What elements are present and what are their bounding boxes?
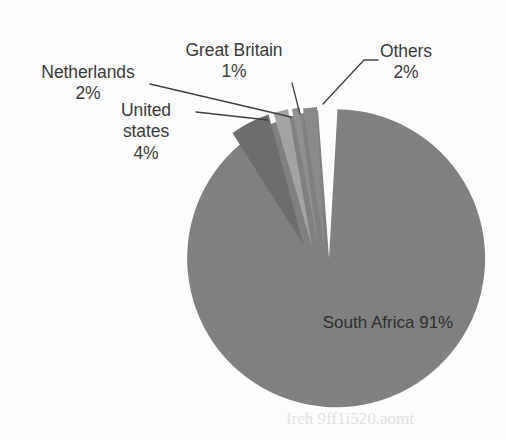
slice-label-others-name: Others (380, 41, 432, 61)
slice-label-south-africa-percent: 91% (419, 313, 453, 332)
slice-label-others[interactable]: Others 2% (362, 41, 450, 84)
slice-label-netherlands-name: Netherlands (41, 62, 134, 82)
slice-label-south-africa[interactable]: South Africa 91% (318, 312, 458, 333)
slice-label-united-states[interactable]: United states 4% (98, 100, 194, 164)
pie-chart-figure: Netherlands 2% United states 4% Great Br… (0, 0, 506, 440)
pie-slices (187, 107, 485, 407)
slice-label-south-africa-name: South Africa (323, 313, 415, 332)
slice-label-netherlands[interactable]: Netherlands 2% (18, 62, 158, 105)
scan-bleed-through-artifact: Ireh 9ff1i520.aomt (224, 409, 476, 431)
slice-label-united-states-name: United states (121, 100, 171, 141)
slice-label-great-britain[interactable]: Great Britain 1% (166, 40, 302, 83)
slice-label-great-britain-percent: 1% (166, 61, 302, 82)
pie-slice-south-africa[interactable] (187, 109, 485, 407)
slice-label-united-states-percent: 4% (98, 143, 194, 164)
leader-line-united-states (196, 112, 268, 120)
slice-label-great-britain-name: Great Britain (186, 40, 283, 60)
slice-label-others-percent: 2% (362, 62, 450, 83)
